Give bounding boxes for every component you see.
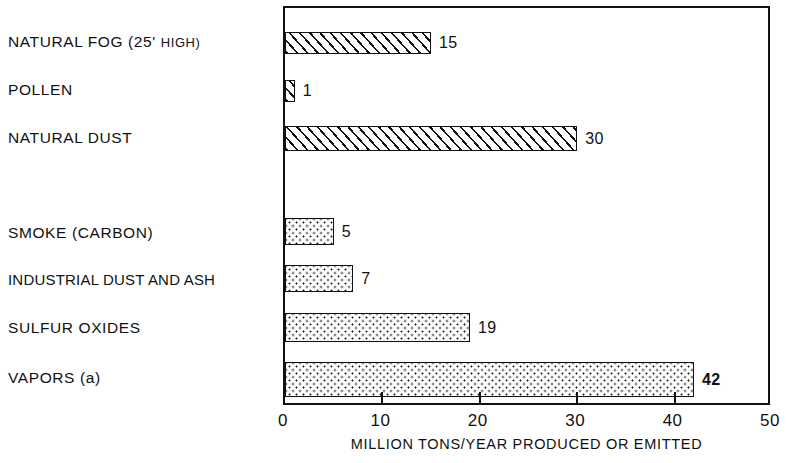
category-label-smoke-carbon: SMOKE (CARBON) xyxy=(8,225,280,241)
bar-value-vapors: 42 xyxy=(702,372,720,388)
category-label-natural-dust: NATURAL DUST xyxy=(8,130,280,146)
x-tick-label-10: 10 xyxy=(370,412,390,429)
bar-value-industrial-dust-and-ash: 7 xyxy=(361,271,370,287)
bar-sulfur-oxides xyxy=(285,313,470,342)
category-label-natural-fog: NATURAL FOG (25' HIGH) xyxy=(8,34,280,50)
bar-value-sulfur-oxides: 19 xyxy=(478,320,496,336)
plot-area: 15 1 30 5 7 19 42 xyxy=(283,6,770,405)
bar-natural-dust xyxy=(285,126,577,151)
bar-value-natural-fog: 15 xyxy=(439,35,457,51)
x-axis-caption: MILLION TONS/YEAR PRODUCED OR EMITTED xyxy=(283,437,770,452)
category-label-pollen: POLLEN xyxy=(8,82,280,98)
x-tick-40 xyxy=(674,392,676,403)
bar-value-pollen: 1 xyxy=(303,83,312,99)
category-label-note-ref: a xyxy=(86,369,95,386)
category-label-text: VAPORS ( xyxy=(8,369,86,386)
x-tick-30 xyxy=(576,392,578,403)
x-tick-label-30: 30 xyxy=(565,412,585,429)
x-tick-10 xyxy=(381,392,383,403)
category-label-vapors: VAPORS (a) xyxy=(8,370,280,386)
bar-value-natural-dust: 30 xyxy=(585,131,603,147)
bar-natural-fog xyxy=(285,32,431,54)
category-label-sulfur-oxides: SULFUR OXIDES xyxy=(8,320,280,336)
x-tick-label-40: 40 xyxy=(663,412,683,429)
x-tick-20 xyxy=(479,392,481,403)
x-tick-label-20: 20 xyxy=(468,412,488,429)
bar-pollen xyxy=(285,80,295,102)
bar-vapors xyxy=(285,362,694,397)
category-label-text: NATURAL FOG (25' xyxy=(8,33,156,50)
bar-value-smoke-carbon: 5 xyxy=(342,224,351,240)
chart-figure: NATURAL FOG (25' HIGH) POLLEN NATURAL DU… xyxy=(0,0,788,463)
x-tick-label-50: 50 xyxy=(760,412,780,429)
category-label-industrial-dust-and-ash: INDUSTRIAL DUST AND ASH xyxy=(8,272,280,287)
bar-smoke-carbon xyxy=(285,218,334,245)
category-label-text-tail: ) xyxy=(95,369,101,386)
bar-industrial-dust-and-ash xyxy=(285,265,353,292)
x-tick-label-0: 0 xyxy=(278,412,288,429)
category-label-suffix: HIGH) xyxy=(161,35,201,50)
